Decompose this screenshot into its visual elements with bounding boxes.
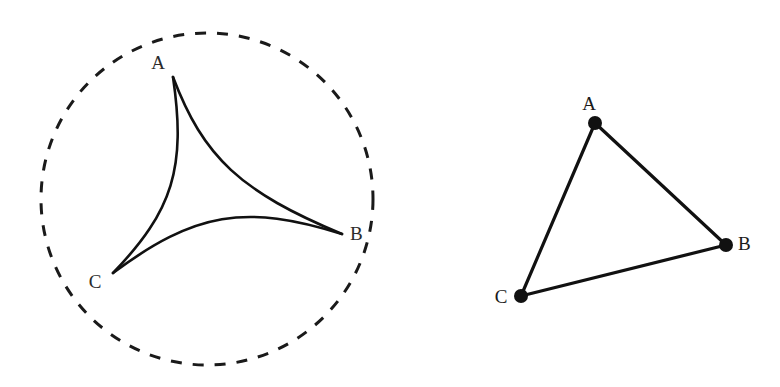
left-vertex-label-b: B	[350, 223, 363, 244]
right-figure-group: A B C	[495, 93, 751, 307]
deltoid-arc-ca	[113, 77, 178, 273]
geometry-figure-canvas: A B C A B C	[0, 0, 780, 387]
triangle-vertex-dot-c	[514, 289, 528, 303]
triangle-vertex-dot-a	[588, 116, 602, 130]
left-vertex-label-c: C	[89, 271, 102, 292]
figure-root: A B C A B C	[0, 0, 780, 387]
dashed-circle	[41, 33, 373, 365]
deltoid-arc-ab	[173, 77, 342, 234]
triangle-edge-ab	[595, 123, 726, 245]
triangle-vertex-dot-b	[719, 238, 733, 252]
right-vertex-label-b: B	[738, 233, 751, 254]
left-figure-group: A B C	[41, 33, 373, 365]
deltoid-arc-bc	[113, 217, 342, 273]
triangle-edge-ca	[521, 123, 595, 296]
triangle-edge-bc	[521, 245, 726, 296]
right-vertex-label-c: C	[495, 286, 508, 307]
left-vertex-label-a: A	[151, 52, 165, 73]
right-vertex-label-a: A	[582, 93, 596, 114]
